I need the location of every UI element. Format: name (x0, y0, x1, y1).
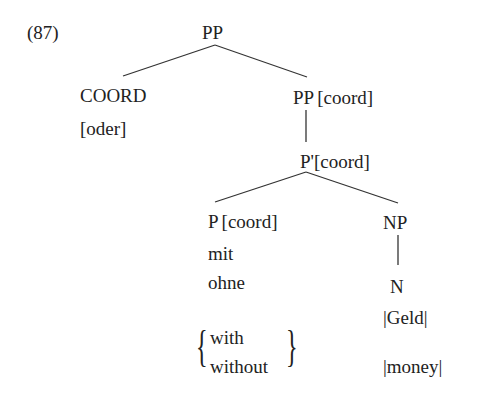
node-coord: COORD (80, 86, 147, 105)
p-word-mit: mit (208, 244, 233, 263)
node-pp-coord-feature: [coord] (317, 87, 373, 108)
node-pbar-coord-label: P' (300, 151, 314, 172)
gloss-without: without (210, 357, 268, 376)
right-brace: } (286, 325, 298, 369)
left-brace: { (196, 325, 208, 369)
node-pp-coord: PP[coord] (293, 88, 373, 107)
tree-branches (0, 0, 488, 400)
node-p-coord: P[coord] (208, 212, 278, 231)
node-n: N (390, 277, 404, 296)
node-p-coord-feature: [coord] (222, 211, 278, 232)
gloss-money: |money| (383, 357, 442, 376)
coord-word-oder: [oder] (80, 119, 126, 138)
node-pp-root: PP (202, 23, 223, 42)
p-word-ohne: ohne (208, 273, 245, 292)
branch-pbar-to-p-coord (215, 172, 306, 202)
branch-pbar-to-np (306, 172, 398, 203)
branch-pp-to-coord (123, 45, 215, 76)
node-pbar-coord: P'[coord] (300, 152, 370, 171)
node-pp-coord-label: PP (293, 87, 314, 108)
example-number: (87) (27, 23, 59, 42)
gloss-with: with (210, 328, 244, 347)
node-p-coord-label: P (208, 211, 219, 232)
branch-pp-to-pp-coord (215, 45, 307, 77)
n-word-geld: |Geld| (383, 308, 428, 327)
node-pbar-coord-feature: [coord] (314, 151, 370, 172)
node-np: NP (383, 213, 407, 232)
